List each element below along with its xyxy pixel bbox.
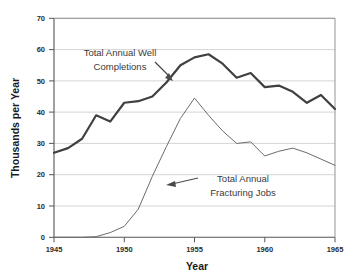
x-axis-title: Year: [186, 260, 208, 272]
y-tick-label-20: 20: [37, 170, 45, 179]
well-completions-annotation-line1: Total Annual Well: [84, 47, 157, 58]
y-tick-label-60: 60: [37, 45, 45, 54]
y-tick-label-30: 30: [37, 139, 45, 148]
x-tick-label-1965: 1965: [327, 245, 344, 254]
fracturing-jobs-annotation-line1: Total Annual: [217, 173, 269, 184]
y-tick-label-70: 70: [37, 14, 45, 23]
x-tick-label-1950: 1950: [116, 245, 133, 254]
x-tick-label-1955: 1955: [186, 245, 203, 254]
y-axis-title: Thousands per Year: [9, 78, 21, 178]
well-completions-annotation-line2: Completions: [94, 61, 147, 72]
y-tick-label-50: 50: [37, 77, 45, 86]
chart-figure: 70 60 50 40 30 20 10 0 1945 1950 1955 19…: [0, 0, 361, 278]
y-tick-label-0: 0: [41, 233, 45, 242]
fracturing-jobs-annotation-line2: Fracturing Jobs: [210, 187, 276, 198]
y-tick-label-40: 40: [37, 108, 45, 117]
x-tick-label-1945: 1945: [46, 245, 63, 254]
line-chart-canvas: 70 60 50 40 30 20 10 0 1945 1950 1955 19…: [0, 0, 361, 278]
y-tick-label-10: 10: [37, 202, 45, 211]
x-tick-label-1960: 1960: [256, 245, 273, 254]
